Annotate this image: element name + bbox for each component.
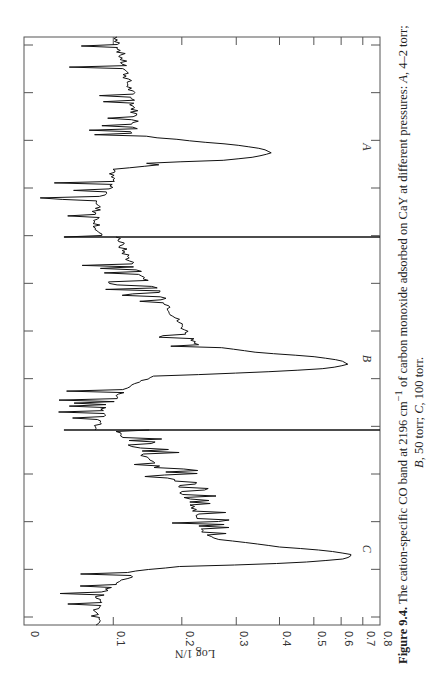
caption-label-c: C: [412, 405, 426, 413]
value-tick-label: 0.7: [365, 631, 377, 646]
peak-label-c: C: [360, 545, 374, 554]
value-tick-label: 0.6: [343, 631, 355, 646]
caption-text-2: of carbon monoxide adsorbed on CaY at di…: [396, 83, 410, 391]
caption-figure-number: Figure 9.4.: [396, 607, 410, 664]
series-a-line: [40, 37, 271, 237]
caption-c-text: , 100 torr.: [412, 357, 426, 406]
value-axis-tick-labels: 00.10.20.30.40.50.60.70.8: [29, 631, 394, 646]
value-tick-label: 0.4: [281, 631, 293, 646]
peak-label-a: A: [360, 142, 374, 151]
value-tick-label: 0.3: [238, 631, 250, 646]
value-tick-label: 0.2: [184, 631, 196, 646]
spectrum-figure: 00.10.20.30.40.50.60.70.8 Log 1/N ABC: [0, 0, 426, 684]
series-b-line: [59, 237, 348, 430]
value-tick-label: 0: [29, 631, 41, 637]
caption-superscript: −1: [393, 390, 404, 401]
caption-label-b: B: [412, 460, 426, 468]
peak-label-b: B: [360, 355, 374, 363]
series-group: [40, 37, 351, 625]
value-tick-label: 0.5: [316, 631, 328, 646]
value-tick-label: 0.1: [115, 631, 127, 646]
figure-caption: Figure 9.4. The cation-specific CO band …: [391, 24, 426, 664]
caption-b-text: , 50 torr;: [412, 414, 426, 461]
caption-a-text: , 4–2 torr;: [396, 25, 410, 75]
caption-label-a: A: [396, 75, 410, 83]
value-axis-title: Log 1/N: [175, 647, 216, 661]
caption-text-1: The cation-specific CO band at 2196 cm: [396, 401, 410, 604]
plot-frame: [24, 37, 380, 625]
series-c-line: [60, 430, 351, 625]
peak-labels: ABC: [360, 142, 374, 553]
axis-ticks: [24, 37, 380, 625]
